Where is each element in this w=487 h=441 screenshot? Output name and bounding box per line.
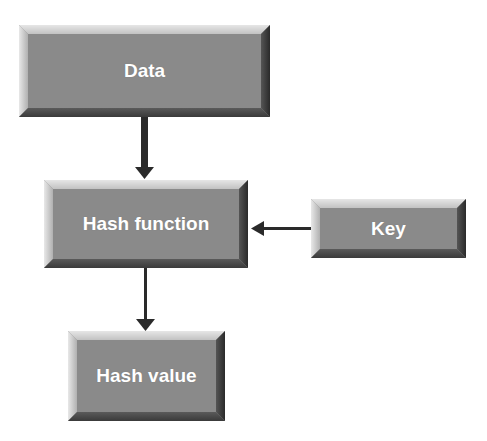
arrow-data-to-hash-function <box>135 117 154 179</box>
arrow-key-to-hash-function <box>251 221 311 236</box>
arrow-hash-function-to-hash-value <box>136 268 155 331</box>
connector-layer <box>0 0 487 441</box>
